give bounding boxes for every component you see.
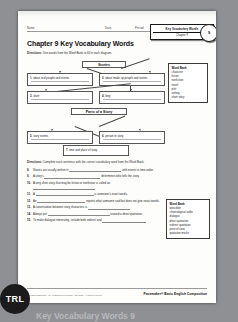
name-label: Name — [27, 27, 105, 30]
question-text: A story's determines who tells the story… — [33, 174, 165, 178]
diagram-box-6-number: 6. — [102, 134, 104, 138]
directions-two-text: Complete each sentence with the correct … — [43, 160, 145, 164]
question-part-1: A story's — [33, 174, 44, 178]
diagram-box-3-number: 3. — [30, 94, 32, 98]
question-text: An reports what someone said but does no… — [33, 199, 165, 203]
question-item[interactable]: 8. Stories are usually written in with e… — [27, 168, 165, 172]
diagram-box-7[interactable]: 7. time and place of story — [63, 145, 129, 156]
date-label: Date — [105, 27, 135, 30]
answer-blank[interactable] — [44, 175, 100, 179]
question-text: A very short story that may be fiction o… — [33, 181, 165, 190]
diagram-box-7-text: time and place of story — [69, 148, 97, 152]
diagram-box-2-number: 2. — [102, 76, 104, 80]
question-part-1: A — [33, 192, 35, 196]
footer-divider — [27, 288, 207, 289]
page-title: Chapter 9 Key Vocabulary Words — [27, 40, 207, 47]
word-bank-one-word: short story — [172, 96, 205, 100]
diagram-box-3-text: short — [33, 94, 39, 98]
question-item[interactable]: 12. An reports what someone said but doe… — [27, 199, 165, 203]
question-part-2: with events in time order. — [122, 168, 153, 172]
question-part-2: reports what someone said but does not g… — [86, 199, 159, 203]
diagram-box-3[interactable]: 3. short — [27, 91, 93, 104]
answer-blank[interactable] — [48, 212, 110, 216]
word-bank-two-word: quotation marks — [170, 232, 207, 236]
question-item[interactable]: 10. A very short story that may be ficti… — [27, 181, 165, 190]
directions-two-label: Directions: — [27, 160, 42, 164]
question-part-1: To make dialogue interesting, include bo… — [33, 218, 102, 222]
answer-blank[interactable] — [69, 168, 121, 172]
write-in-rule — [31, 81, 89, 82]
diagram-box-5[interactable]: 5. story events — [27, 131, 93, 144]
answer-blank[interactable] — [36, 192, 94, 196]
page-footer: © Pearson Education, Inc., publishing as… — [27, 292, 207, 296]
brand-text: Pacemaker® Basic English Composition — [144, 292, 207, 296]
question-text: Stories are usually written in with even… — [33, 168, 165, 172]
word-bank-two: Word Bank anecdote chronological order d… — [166, 199, 210, 239]
word-bank-one: Word Bank character fiction nonfiction n… — [168, 63, 208, 103]
word-bank-two-title: Word Bank — [170, 202, 207, 206]
question-text: A conversation between story characters … — [33, 205, 165, 209]
copyright-text: © Pearson Education, Inc., publishing as… — [27, 294, 102, 296]
diagram-box-2-text: about made up people and events — [105, 76, 147, 80]
question-item[interactable]: 13. A conversation between story charact… — [27, 205, 165, 209]
question-item[interactable]: 15. To make dialogue interesting, includ… — [27, 218, 165, 222]
diagram-box-4-number: 4. — [102, 94, 104, 98]
write-in-rule — [103, 81, 161, 82]
page-content: Name Date Period Chapter 9 Key Vocabular… — [27, 18, 207, 225]
parts-of-story-diagram: 5. story events 6. person in story 7. ti… — [27, 125, 207, 157]
question-list: 8. Stories are usually written in with e… — [27, 168, 165, 223]
diagram-box-6[interactable]: 6. person in story — [99, 131, 165, 144]
diagram-heading-parts-of-a-story: Parts of a Story — [71, 108, 127, 115]
diagram-box-7-number: 7. — [66, 148, 68, 152]
write-in-rule — [31, 99, 89, 100]
diagram-box-2[interactable]: 2. about made up people and events — [99, 73, 165, 86]
question-part-1: Always put — [33, 212, 47, 216]
question-text: Always put around a direct quotation. — [33, 212, 165, 216]
diagram-box-1-text: about real people and events — [33, 76, 69, 80]
question-item[interactable]: 14. Always put around a direct quotation… — [27, 212, 165, 216]
answer-blank[interactable] — [37, 199, 85, 203]
worksheet-page: Key Vocabulary Words Chapter 9 9 Name Da… — [18, 11, 216, 303]
answer-blank[interactable] — [102, 219, 146, 223]
word-bank-one-title: Word Bank — [172, 66, 205, 70]
question-part-2: around a direct quotation. — [110, 212, 142, 216]
directions-one-label: Directions: — [27, 51, 42, 55]
diagram-box-4-text: long — [105, 94, 110, 98]
diagram-box-4[interactable]: 4. long — [99, 91, 165, 104]
question-part-1: An — [33, 199, 36, 203]
directions-one-text: Use words from the Word Bank to fill in … — [43, 51, 112, 55]
write-in-rule — [103, 99, 161, 100]
question-item[interactable]: 11. A is someone's exact words. — [27, 192, 165, 196]
question-part-1: Stories are usually written in — [33, 168, 69, 172]
chapter-tab[interactable]: Key Vocabulary Words Chapter 9 9 — [150, 24, 214, 40]
question-part-2: determines who tells the story. — [101, 174, 139, 178]
write-in-rule — [103, 139, 161, 140]
question-text: To make dialogue interesting, include bo… — [33, 218, 165, 222]
diagram-box-5-number: 5. — [30, 134, 32, 138]
question-part-1: A very short story that may be fiction o… — [33, 181, 110, 185]
diagram-heading-stories: Stories — [82, 61, 126, 68]
page-caption: Key Vocabulary Words 9 — [36, 311, 238, 321]
directions-one: Directions: Use words from the Word Bank… — [27, 52, 207, 56]
trl-badge[interactable]: TRL — [0, 284, 30, 314]
diagram-box-6-text: person in story — [105, 134, 123, 138]
directions-two: Directions: Complete each sentence with … — [27, 161, 167, 165]
answer-blank[interactable] — [88, 205, 130, 209]
write-in-rule — [31, 139, 89, 140]
diagram-box-5-text: story events — [33, 134, 48, 138]
question-text: A is someone's exact words. — [33, 192, 165, 196]
chapter-number-badge: 9 — [200, 24, 216, 42]
answer-blank[interactable] — [33, 186, 95, 190]
question-item[interactable]: 9. A story's determines who tells the st… — [27, 174, 165, 178]
diagram-box-1[interactable]: 1. about real people and events — [27, 73, 93, 86]
diagram-box-1-number: 1. — [30, 76, 32, 80]
question-part-1: A conversation between story characters … — [33, 205, 87, 209]
question-part-2: is someone's exact words. — [94, 192, 127, 196]
